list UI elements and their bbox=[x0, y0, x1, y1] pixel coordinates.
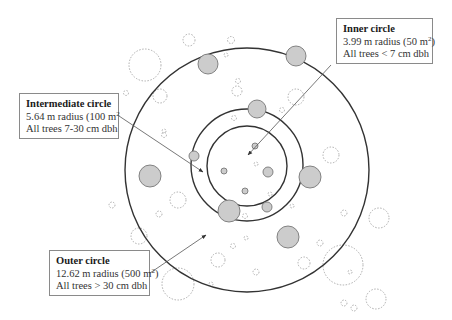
unmeasured-tree bbox=[232, 116, 237, 121]
unmeasured-tree bbox=[323, 245, 363, 285]
unmeasured-tree bbox=[351, 305, 357, 311]
outer-circle-label: Outer circle 12.62 m radius (500 m2) All… bbox=[49, 250, 150, 296]
measured-tree bbox=[221, 168, 227, 174]
measured-tree bbox=[198, 54, 218, 74]
unmeasured-tree bbox=[183, 34, 195, 46]
unmeasured-tree bbox=[253, 269, 259, 275]
unmeasured-tree bbox=[124, 91, 129, 96]
measured-tree bbox=[299, 166, 321, 188]
measured-tree bbox=[263, 167, 273, 177]
unmeasured-tree bbox=[341, 300, 347, 306]
measured-tree bbox=[286, 46, 306, 66]
unmeasured-tree bbox=[231, 244, 236, 249]
unmeasured-tree bbox=[153, 89, 167, 103]
inner-label-title: Inner circle bbox=[343, 23, 426, 36]
unmeasured-tree bbox=[162, 129, 166, 133]
measured-tree bbox=[252, 143, 258, 149]
intermediate-arrow bbox=[119, 116, 203, 172]
unmeasured-tree bbox=[323, 147, 339, 163]
intermediate-label-title: Intermediate circle bbox=[26, 98, 112, 111]
measured-tree bbox=[262, 202, 272, 212]
intermediate-label-radius: 5.64 m radius (100 m2 bbox=[26, 111, 112, 124]
unmeasured-tree bbox=[280, 108, 285, 113]
measured-tree bbox=[218, 200, 240, 222]
unmeasured-tree bbox=[298, 257, 310, 269]
unmeasured-tree bbox=[228, 37, 235, 44]
unmeasured-tree bbox=[243, 214, 248, 219]
unmeasured-tree bbox=[156, 211, 162, 217]
unmeasured-tree bbox=[129, 49, 161, 81]
unmeasured-tree bbox=[254, 162, 258, 166]
outer-label-title: Outer circle bbox=[56, 255, 143, 268]
intermediate-label-criteria: All trees 7-30 cm dbh bbox=[26, 123, 112, 136]
unmeasured-tree bbox=[236, 79, 241, 84]
unmeasured-tree bbox=[170, 192, 186, 208]
unmeasured-tree bbox=[268, 192, 272, 196]
unmeasured-tree bbox=[341, 210, 347, 216]
measured-tree bbox=[139, 165, 161, 187]
unmeasured-tree bbox=[232, 86, 242, 96]
plot-circles-group bbox=[125, 48, 369, 292]
unmeasured-tree bbox=[348, 270, 352, 274]
unmeasured-tree bbox=[366, 289, 386, 309]
measured-trees-group bbox=[139, 46, 321, 248]
unmeasured-tree bbox=[369, 208, 389, 228]
outer-label-criteria: All trees > 30 cm dbh bbox=[56, 280, 143, 293]
unmeasured-tree bbox=[224, 53, 228, 57]
unmeasured-tree bbox=[290, 204, 294, 208]
measured-tree bbox=[189, 151, 199, 161]
unmeasured-tree bbox=[162, 268, 194, 300]
measured-tree bbox=[277, 226, 299, 248]
inner-label-criteria: All trees < 7 cm dbh bbox=[343, 48, 426, 61]
unmeasured-tree bbox=[109, 202, 115, 208]
outer-plot-circle bbox=[125, 48, 369, 292]
unmeasured-tree bbox=[317, 240, 323, 246]
measured-tree bbox=[242, 188, 248, 194]
intermediate-circle-label: Intermediate circle 5.64 m radius (100 m… bbox=[19, 93, 119, 139]
inner-circle-label: Inner circle 3.99 m radius (50 m2) All t… bbox=[336, 18, 433, 64]
unmeasured-tree bbox=[244, 236, 248, 240]
inner-label-radius: 3.99 m radius (50 m2) bbox=[343, 36, 426, 49]
inner-plot-circle bbox=[207, 126, 287, 206]
outer-label-radius: 12.62 m radius (500 m2) bbox=[56, 268, 143, 281]
measured-tree bbox=[248, 100, 266, 118]
unmeasured-tree bbox=[162, 133, 167, 138]
unmeasured-tree bbox=[211, 253, 225, 267]
